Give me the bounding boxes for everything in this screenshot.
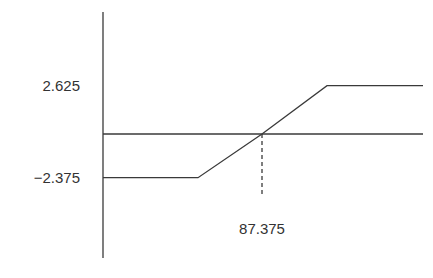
y-tick-label-upper: 2.625	[42, 77, 80, 94]
payoff-line	[103, 86, 423, 178]
y-tick-label-lower: −2.375	[34, 169, 80, 186]
payoff-chart: 2.625 −2.375 87.375	[0, 0, 433, 278]
breakeven-label: 87.375	[239, 220, 285, 237]
